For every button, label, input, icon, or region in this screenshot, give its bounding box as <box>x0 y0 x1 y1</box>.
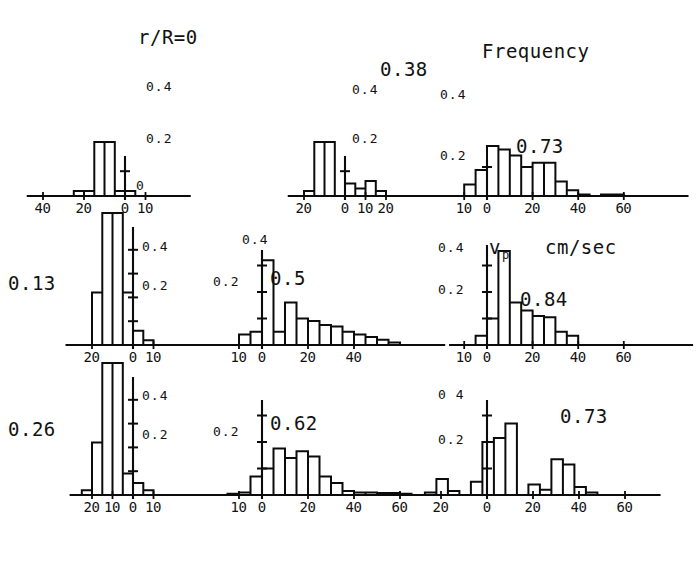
x-tick-label-panel-3: 10 <box>456 200 472 216</box>
x-tick-label-panel-9: 20 <box>433 499 449 515</box>
panel-label-panel-5: 0.5 <box>270 267 306 289</box>
x-tick-label-panel-2: 20 <box>296 200 312 216</box>
y-tick-label-panel-6-04: 0.4 <box>438 240 464 255</box>
y-tick-label-panel-4-04: 0.4 <box>142 239 168 254</box>
x-tick-label-panel-7: 10 <box>145 499 161 515</box>
vp-axis-symbol: vp <box>489 236 509 258</box>
x-tick-label-panel-8: 10 <box>231 499 247 515</box>
histogram-canvas-panel-9 <box>0 0 696 563</box>
frequency-axis-title: Frequency <box>482 40 589 62</box>
x-tick-label-panel-3: 20 <box>524 200 540 216</box>
y-tick-label-panel-3-02: 0.2 <box>440 148 466 163</box>
x-tick-label-panel-2: 10 <box>357 200 373 216</box>
x-tick-label-panel-6: 40 <box>570 349 586 365</box>
figure-root: 4020010200102010020406020010100204010020… <box>0 0 696 563</box>
y-tick-label-panel-1-0: 0 <box>136 178 145 193</box>
x-tick-label-panel-4: 10 <box>145 349 161 365</box>
panel-label-panel-3: 0.73 <box>516 135 564 157</box>
panel-label-panel-6: 0.84 <box>520 288 568 310</box>
panel-label-panel-2: 0.38 <box>380 58 428 80</box>
panel-label-panel-8: 0.62 <box>270 412 318 434</box>
histogram-panel-2 <box>0 0 696 563</box>
histogram-canvas-panel-3 <box>0 0 696 563</box>
histogram-panel-4 <box>0 0 696 563</box>
x-tick-label-panel-6: 0 <box>483 349 491 365</box>
y-tick-label-panel-9-02: 0.2 <box>438 432 464 447</box>
x-tick-label-panel-7: 0 <box>129 499 137 515</box>
x-tick-label-panel-3: 40 <box>570 200 586 216</box>
y-tick-label-panel-3-04: 0.4 <box>440 87 466 102</box>
panel-label-panel-7: 0.26 <box>8 418 56 440</box>
histogram-panel-6 <box>0 0 696 563</box>
x-tick-label-panel-6: 10 <box>456 349 472 365</box>
x-tick-label-panel-5: 20 <box>300 349 316 365</box>
x-tick-label-panel-4: 20 <box>84 349 100 365</box>
x-tick-label-panel-1: 0 <box>121 200 129 216</box>
x-tick-label-panel-3: 0 <box>483 200 491 216</box>
x-tick-label-panel-8: 60 <box>392 499 408 515</box>
x-tick-label-panel-1: 20 <box>76 200 92 216</box>
y-tick-label-panel-7-02: 0.2 <box>142 427 168 442</box>
y-tick-label-panel-2-02: 0.2 <box>352 131 378 146</box>
panel-label-panel-4: 0.13 <box>8 272 56 294</box>
y-tick-label-panel-2-04: 0.4 <box>352 82 378 97</box>
histogram-panel-3 <box>0 0 696 563</box>
histogram-panel-5 <box>0 0 696 563</box>
y-tick-label-panel-4-02: 0.2 <box>142 278 168 293</box>
y-tick-label-panel-7-04: 0.4 <box>142 388 168 403</box>
y-tick-label-panel-8-02: 0.2 <box>213 424 239 439</box>
x-tick-label-panel-5: 40 <box>346 349 362 365</box>
x-tick-label-panel-7: 10 <box>104 499 120 515</box>
x-tick-label-panel-1: 10 <box>137 200 153 216</box>
x-tick-label-panel-8: 0 <box>258 499 266 515</box>
x-tick-label-panel-9: 0 <box>483 499 491 515</box>
x-tick-label-panel-1: 40 <box>35 200 51 216</box>
histogram-panel-7 <box>0 0 696 563</box>
histogram-panel-1 <box>0 0 696 563</box>
histogram-bars-panel-5 <box>228 260 401 345</box>
x-tick-label-panel-9: 40 <box>571 499 587 515</box>
histogram-canvas-panel-4 <box>0 0 696 563</box>
x-tick-label-panel-6: 60 <box>615 349 631 365</box>
panel-label-panel-9: 0.73 <box>560 405 608 427</box>
x-tick-label-panel-9: 20 <box>525 499 541 515</box>
y-tick-label-panel-1-02: 0.2 <box>146 131 172 146</box>
y-tick-label-panel-1-04: 0.4 <box>146 79 172 94</box>
y-tick-label-panel-9-04: 0 4 <box>438 387 464 402</box>
x-tick-label-panel-5: 0 <box>258 349 266 365</box>
velocity-units-label: cm/sec <box>545 236 617 258</box>
x-tick-label-panel-8: 20 <box>300 499 316 515</box>
x-tick-label-panel-5: 10 <box>231 349 247 365</box>
histogram-panel-9 <box>0 0 696 563</box>
histogram-canvas-panel-8 <box>0 0 696 563</box>
histogram-canvas-panel-6 <box>0 0 696 563</box>
histogram-canvas-panel-1 <box>0 0 696 563</box>
y-tick-label-panel-5-04: 0.4 <box>242 232 268 247</box>
histogram-canvas-panel-2 <box>0 0 696 563</box>
histogram-canvas-panel-5 <box>0 0 696 563</box>
x-tick-label-panel-2: 0 <box>341 200 349 216</box>
histogram-panel-8 <box>0 0 696 563</box>
histogram-bars-panel-2 <box>294 142 397 196</box>
x-tick-label-panel-9: 60 <box>617 499 633 515</box>
x-tick-label-panel-4: 0 <box>129 349 137 365</box>
x-tick-label-panel-7: 20 <box>84 499 100 515</box>
y-tick-label-panel-6-02: 0.2 <box>438 282 464 297</box>
x-tick-label-panel-2: 20 <box>378 200 394 216</box>
x-tick-label-panel-6: 20 <box>524 349 540 365</box>
histogram-canvas-panel-7 <box>0 0 696 563</box>
x-tick-label-panel-8: 40 <box>346 499 362 515</box>
histogram-bars-panel-8 <box>228 449 435 495</box>
panel-label-panel-1: r/R=0 <box>138 26 198 48</box>
y-tick-label-panel-5-02: 0.2 <box>213 274 239 289</box>
x-tick-label-panel-3: 60 <box>615 200 631 216</box>
